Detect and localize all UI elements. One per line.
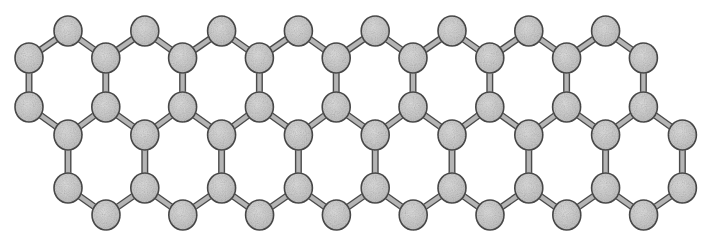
atom-c-48	[399, 200, 427, 230]
atom-c-19	[169, 92, 197, 122]
atom-c-4	[361, 16, 389, 46]
atom-c-32	[515, 120, 543, 150]
atom-c-49	[476, 200, 504, 230]
atom-c-16	[629, 43, 657, 73]
lattice-canvas	[0, 0, 710, 244]
atom-c-41	[515, 173, 543, 203]
atom-c-44	[92, 200, 120, 230]
atom-c-31	[438, 120, 466, 150]
atom-c-21	[322, 92, 350, 122]
atom-c-0	[54, 16, 82, 46]
atom-c-23	[476, 92, 504, 122]
atom-c-33	[592, 120, 620, 150]
atom-c-25	[629, 92, 657, 122]
atom-c-39	[361, 173, 389, 203]
atom-c-10	[169, 43, 197, 73]
atom-c-29	[284, 120, 312, 150]
atom-c-17	[15, 92, 43, 122]
atom-c-27	[131, 120, 159, 150]
atom-c-3	[284, 16, 312, 46]
atom-c-43	[668, 173, 696, 203]
bond-layer	[29, 31, 682, 215]
atom-c-18	[92, 92, 120, 122]
atom-c-36	[131, 173, 159, 203]
atom-c-20	[245, 92, 273, 122]
lattice-figure	[0, 0, 710, 244]
atom-c-24	[553, 92, 581, 122]
atom-c-30	[361, 120, 389, 150]
atom-c-14	[476, 43, 504, 73]
atom-c-40	[438, 173, 466, 203]
atom-c-42	[592, 173, 620, 203]
atom-c-15	[553, 43, 581, 73]
atom-c-47	[322, 200, 350, 230]
atom-c-45	[169, 200, 197, 230]
atom-c-26	[54, 120, 82, 150]
atom-c-13	[399, 43, 427, 73]
atom-c-6	[515, 16, 543, 46]
atom-c-11	[245, 43, 273, 73]
atom-c-12	[322, 43, 350, 73]
atom-c-35	[54, 173, 82, 203]
atom-c-28	[208, 120, 236, 150]
atom-c-50	[553, 200, 581, 230]
atom-c-22	[399, 92, 427, 122]
atom-c-9	[92, 43, 120, 73]
atom-c-51	[630, 200, 658, 230]
atom-c-2	[208, 16, 236, 46]
atom-c-5	[438, 16, 466, 46]
atom-c-37	[208, 173, 236, 203]
atom-c-8	[15, 43, 43, 73]
atom-c-1	[131, 16, 159, 46]
atom-c-46	[246, 200, 274, 230]
atom-c-7	[592, 16, 620, 46]
atom-c-38	[284, 173, 312, 203]
atom-c-34	[668, 120, 696, 150]
